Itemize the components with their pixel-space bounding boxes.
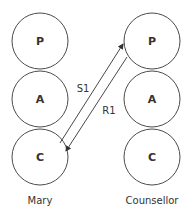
ta-diagram: P A C Mary P A C Counsellor S1 xyxy=(0,0,196,217)
mary-child-label: C xyxy=(36,151,44,164)
counsellor-child-state: C xyxy=(124,129,180,185)
counsellor-name-label: Counsellor xyxy=(126,195,180,206)
s1-label: S1 xyxy=(77,83,90,94)
counsellor-adult-state: A xyxy=(124,71,180,127)
r1-arrow-icon xyxy=(66,57,127,151)
counsellor-parent-label: P xyxy=(148,35,156,48)
person-counsellor: P A C Counsellor xyxy=(124,13,180,206)
mary-name-label: Mary xyxy=(28,195,53,206)
mary-parent-label: P xyxy=(36,35,44,48)
transaction-r1: R1 xyxy=(66,57,127,151)
s1-arrow-icon xyxy=(60,44,123,143)
mary-child-state: C xyxy=(12,129,68,185)
counsellor-adult-label: A xyxy=(148,93,157,106)
transaction-s1: S1 xyxy=(60,44,123,143)
mary-adult-label: A xyxy=(36,93,45,106)
person-mary: P A C Mary xyxy=(12,13,68,206)
mary-parent-state: P xyxy=(12,13,68,69)
mary-adult-state: A xyxy=(12,71,68,127)
counsellor-parent-state: P xyxy=(124,13,180,69)
r1-label: R1 xyxy=(102,105,115,116)
counsellor-child-label: C xyxy=(148,151,156,164)
